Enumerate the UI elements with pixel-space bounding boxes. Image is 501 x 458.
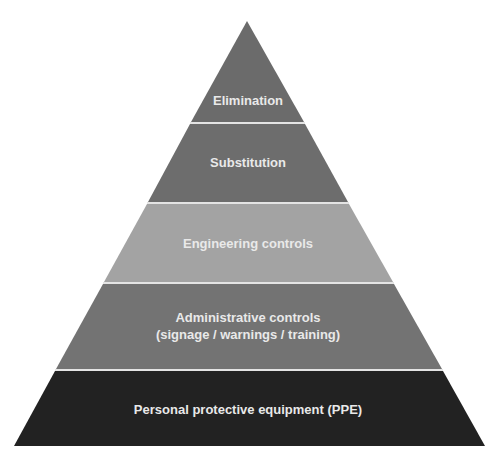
tier-substitution: Substitution — [148, 124, 348, 202]
tier-elimination: Elimination — [191, 21, 304, 122]
tier-ppe: Personal protective equipment (PPE) — [14, 371, 485, 446]
tier-ppe-label: Personal protective equipment (PPE) — [134, 402, 362, 417]
tier-administrative-controls-label-line2: (signage / warnings / training) — [156, 327, 340, 342]
tier-engineering-controls: Engineering controls — [104, 204, 393, 282]
tier-substitution-label: Substitution — [210, 155, 286, 170]
tier-engineering-controls-label: Engineering controls — [183, 236, 313, 251]
tier-administrative-controls-label-line1: Administrative controls — [175, 310, 320, 325]
tier-administrative-controls: Administrative controls (signage / warni… — [56, 284, 442, 369]
tier-elimination-label: Elimination — [213, 93, 283, 108]
hierarchy-of-controls-pyramid: Elimination Substitution Engineering con… — [0, 0, 501, 458]
